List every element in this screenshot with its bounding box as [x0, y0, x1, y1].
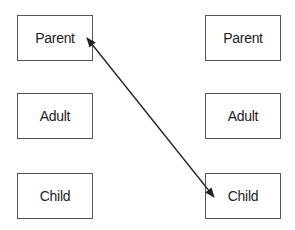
diagram-canvas: Parent Adult Child Parent Adult Child	[0, 0, 295, 230]
bidirectional-arrow-icon	[0, 0, 295, 230]
